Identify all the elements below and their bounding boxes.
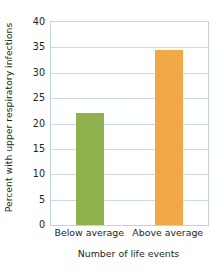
bar (155, 50, 183, 225)
y-tick-label: 25 (33, 92, 45, 103)
y-tick-label: 15 (33, 142, 45, 153)
y-axis-title: Percent with upper respiratory infection… (0, 0, 18, 235)
gridline (51, 124, 208, 125)
gridline (51, 73, 208, 74)
y-axis-title-text: Percent with upper respiratory infection… (4, 23, 15, 213)
gridline (51, 149, 208, 150)
plot-area (50, 21, 209, 226)
y-tick-label: 10 (33, 168, 45, 179)
gridline (51, 98, 208, 99)
bar-chart: Percent with upper respiratory infection… (0, 0, 220, 271)
y-tick-label: 35 (33, 41, 45, 52)
y-tick-label: 20 (33, 117, 45, 128)
gridline (51, 200, 208, 201)
gridline (51, 47, 208, 48)
x-axis-tick-labels: Below averageAbove average (50, 227, 207, 243)
x-tick-label: Below average (54, 227, 124, 238)
y-tick-label: 40 (33, 16, 45, 27)
bar (76, 113, 104, 225)
y-tick-label: 30 (33, 66, 45, 77)
y-tick-label: 0 (39, 219, 45, 230)
y-axis-tick-labels: 0510152025303540 (18, 0, 48, 235)
x-tick-label: Above average (132, 227, 203, 238)
gridline (51, 174, 208, 175)
x-axis-title: Number of life events (50, 248, 207, 259)
y-tick-label: 5 (39, 193, 45, 204)
